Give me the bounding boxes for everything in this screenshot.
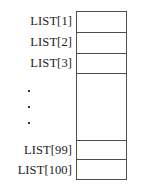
cell-label-list-100: LIST[100] <box>0 164 72 177</box>
cell-label-list-2: LIST[2] <box>0 36 72 49</box>
ellipsis-dot-icon <box>28 122 30 124</box>
cell-label-list-99: LIST[99] <box>0 144 72 157</box>
array-cell-1 <box>77 12 126 33</box>
array-cell-100 <box>77 160 126 179</box>
array-list-diagram: LIST[1] LIST[2] LIST[3] LIST[99] LIST[10… <box>0 0 150 194</box>
ellipsis-dot-icon <box>28 90 30 92</box>
array-cell-elided <box>77 74 126 141</box>
array-cell-2 <box>77 33 126 54</box>
ellipsis-dot-icon <box>28 106 30 108</box>
array-cell-99 <box>77 141 126 160</box>
array-cell-3 <box>77 54 126 74</box>
array-box <box>76 11 127 180</box>
cell-label-list-1: LIST[1] <box>0 15 72 28</box>
cell-label-list-3: LIST[3] <box>0 57 72 70</box>
